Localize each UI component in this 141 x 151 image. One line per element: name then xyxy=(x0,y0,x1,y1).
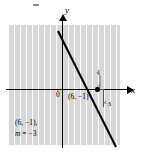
y-axis-arrow-icon xyxy=(59,14,67,21)
y-axis-line xyxy=(62,20,63,148)
marked-point-dot xyxy=(95,87,100,92)
point-coordinate-label: (6, −1) xyxy=(68,93,88,101)
top-dash-artifact xyxy=(33,4,39,6)
x-axis-line xyxy=(6,89,128,90)
y-axis-label: y xyxy=(65,6,69,15)
figure-caption: (6, −1), m = −3 xyxy=(15,118,37,140)
caption-line-1: (6, −1), xyxy=(15,118,37,129)
x-axis-label: x xyxy=(131,86,135,95)
caption-slope-value: = −3 xyxy=(20,129,36,138)
slope-run-label: 1 xyxy=(97,69,100,76)
caption-line-2: m = −3 xyxy=(15,129,37,140)
figure-coordinate-plane: y x 0 1 −3 (6, −1) (6, −1), m = −3 xyxy=(0,0,141,151)
origin-label: 0 xyxy=(56,91,60,99)
slope-rise-label: −3 xyxy=(104,101,111,108)
